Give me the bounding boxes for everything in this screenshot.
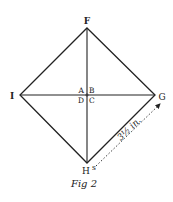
measurement-label: 3½ in. (115, 115, 143, 142)
center-label-d: D (78, 96, 84, 105)
center-label-a: A (78, 86, 85, 95)
vertex-label-h-superscript: s (92, 163, 96, 172)
figure-caption: Fig 2 (70, 178, 97, 189)
vertex-label-f: F (84, 16, 91, 26)
diagram-canvas: F I G H s A B D C 3½ in. Fig 2 (0, 0, 173, 202)
vertex-label-i: I (10, 91, 14, 101)
center-label-b: B (89, 86, 95, 95)
vertex-label-g: G (158, 92, 165, 102)
center-label-c: C (89, 96, 95, 105)
vertex-label-h: H (82, 166, 90, 176)
